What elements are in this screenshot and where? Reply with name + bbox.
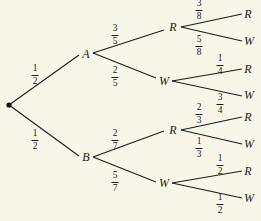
prob-BW-W: 12 (217, 193, 224, 215)
edge-A-W (93, 53, 156, 78)
node-A: A (82, 48, 89, 60)
leaf-AW-W: W (244, 89, 254, 101)
leaf-AR-W: W (244, 35, 254, 47)
prob-AR-W: 58 (196, 35, 203, 57)
edge-AR-R (181, 14, 242, 27)
prob-A-R: 35 (112, 24, 119, 46)
prob-AR-R: 38 (196, 0, 203, 21)
prob-root-A: 12 (32, 64, 39, 86)
edge-root-B (9, 105, 79, 156)
leaf-AW-R: R (244, 63, 251, 75)
edge-B-R (93, 131, 164, 157)
probability-tree-diagram: A B R W R W R W R W R W R W 12 12 35 25 … (0, 0, 261, 221)
leaf-BW-R: R (244, 165, 251, 177)
prob-B-W: 57 (112, 171, 119, 193)
edge-AW-R (172, 69, 242, 81)
edge-BW-R (172, 171, 242, 183)
prob-A-W: 25 (112, 66, 119, 88)
prob-BR-W: 13 (196, 137, 203, 159)
prob-B-R: 27 (112, 129, 119, 151)
leaf-AR-R: R (244, 8, 251, 20)
edge-BR-W (181, 130, 242, 144)
edge-root-A (9, 55, 79, 105)
prob-AW-R: 14 (217, 54, 224, 76)
prob-BR-R: 23 (196, 103, 203, 125)
node-A-W: W (159, 75, 169, 87)
leaf-BW-W: W (244, 192, 254, 204)
node-B-R: R (169, 124, 176, 136)
edge-A-R (93, 30, 164, 53)
node-B-W: W (159, 177, 169, 189)
prob-root-B: 12 (32, 129, 39, 151)
leaf-BR-R: R (244, 111, 251, 123)
edge-BW-W (172, 183, 242, 198)
leaf-BR-W: W (244, 138, 254, 150)
edge-BR-R (181, 117, 242, 130)
node-A-R: R (169, 21, 176, 33)
edge-AR-W (181, 27, 242, 41)
edge-AW-W (172, 81, 242, 96)
edge-B-W (93, 157, 156, 182)
prob-AW-W: 34 (217, 93, 224, 115)
node-B: B (82, 151, 89, 163)
prob-BW-R: 12 (217, 154, 224, 176)
